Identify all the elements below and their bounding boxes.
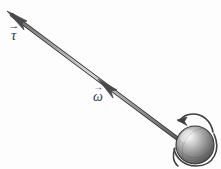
torque-vector-label: → τ bbox=[11, 28, 16, 43]
figure-container: → τ → ω bbox=[0, 0, 221, 169]
omega-glyph-wrap: → ω bbox=[93, 90, 103, 104]
torque-glyph-wrap: → τ bbox=[11, 28, 16, 43]
vector-diagram-canvas bbox=[0, 0, 221, 169]
angular-velocity-vector-label: → ω bbox=[93, 90, 103, 104]
angular-velocity-vector-accent: → bbox=[93, 82, 103, 92]
torque-vector-accent: → bbox=[8, 20, 19, 31]
